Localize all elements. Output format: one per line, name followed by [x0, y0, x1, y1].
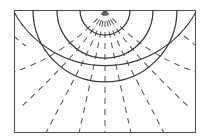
flow-net-diagram	[0, 0, 210, 140]
figure-root	[0, 0, 210, 140]
